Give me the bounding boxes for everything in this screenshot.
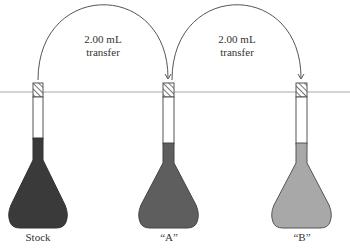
flask-liquid xyxy=(139,143,199,228)
flask-label-stock: Stock xyxy=(13,231,63,243)
flask-liquid xyxy=(272,143,332,228)
flask-liquid xyxy=(9,138,68,228)
transfer-label-2: 2.00 mL transfer xyxy=(202,33,272,59)
stopper-icon xyxy=(163,83,174,97)
transfer-label-1: 2.00 mL transfer xyxy=(68,33,138,59)
stopper-icon xyxy=(296,83,307,97)
transfer-action: transfer xyxy=(202,46,272,59)
flask-label-b: “B” xyxy=(277,231,327,243)
transfer-volume: 2.00 mL xyxy=(202,33,272,46)
flask-label-a: “A” xyxy=(144,231,194,243)
flask-a xyxy=(139,83,199,228)
stopper-icon xyxy=(33,83,43,97)
transfer-volume: 2.00 mL xyxy=(68,33,138,46)
flask-b xyxy=(272,83,332,228)
transfer-action: transfer xyxy=(68,46,138,59)
serial-dilution-diagram xyxy=(0,0,350,250)
flask-stock xyxy=(9,83,68,228)
